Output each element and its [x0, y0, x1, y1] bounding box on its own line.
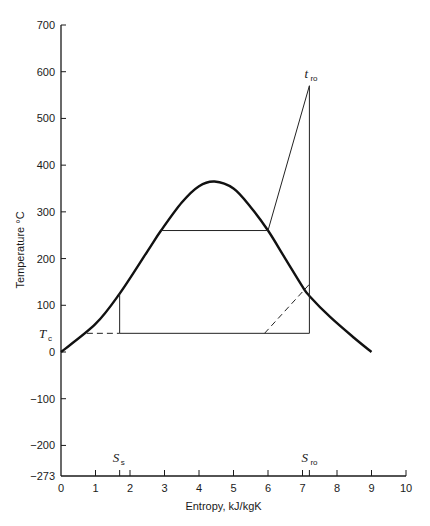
y-tick-label: −273: [30, 470, 55, 482]
x-tick-label: 3: [161, 482, 167, 494]
x-tick-label: 0: [58, 482, 64, 494]
y-tick-label: 600: [37, 66, 55, 78]
x-tick-label: 1: [92, 482, 98, 494]
y-tick-label: 500: [37, 112, 55, 124]
y-tick-label: −100: [30, 393, 55, 405]
tro-label: t: [304, 66, 308, 81]
saturation-curve: [61, 181, 372, 352]
x-tick-label: 7: [299, 482, 305, 494]
y-tick-label: −200: [30, 439, 55, 451]
tro-label-sub: ro: [310, 74, 318, 83]
x-tick-label: 6: [265, 482, 271, 494]
ss-label: S: [113, 450, 120, 465]
ss-label-sub: s: [121, 458, 125, 467]
tc-label-sub: c: [48, 334, 52, 343]
y-tick-label: 100: [37, 299, 55, 311]
tc-label: T: [39, 326, 47, 341]
x-tick-label: 5: [230, 482, 236, 494]
y-tick-label: 200: [37, 253, 55, 265]
sro-label-sub: ro: [310, 458, 318, 467]
x-tick-label: 4: [196, 482, 202, 494]
x-tick-label: 10: [400, 482, 412, 494]
y-axis-title: Temperature °C: [14, 211, 26, 288]
x-axis-title: Entropy, kJ/kgK: [185, 500, 262, 512]
x-tick-label: 9: [368, 482, 374, 494]
y-tick-label: 700: [37, 19, 55, 31]
y-tick-label: 0: [49, 346, 55, 358]
cycle-line: [268, 86, 309, 231]
x-tick-label: 2: [127, 482, 133, 494]
y-tick-label: 300: [37, 206, 55, 218]
y-tick-label: 400: [37, 159, 55, 171]
x-tick-label: 8: [334, 482, 340, 494]
ts-diagram: 0123456789107006005004003002001000−100−2…: [0, 0, 430, 526]
dashed-line: [265, 284, 310, 333]
sro-label: S: [301, 450, 308, 465]
